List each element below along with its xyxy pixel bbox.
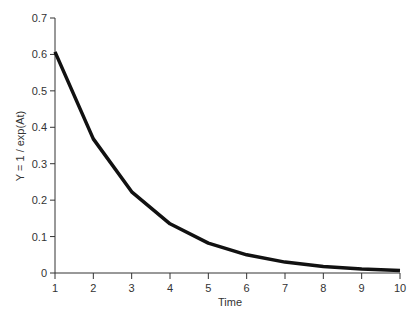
x-tick-label: 9 <box>359 282 365 294</box>
x-tick-label: 10 <box>394 282 406 294</box>
x-axis-label: Time <box>218 296 242 308</box>
y-axis: 00.10.20.30.40.50.60.7 <box>32 12 55 279</box>
x-tick-label: 4 <box>167 282 173 294</box>
x-tick-label: 1 <box>52 282 58 294</box>
y-tick-label: 0.3 <box>32 158 47 170</box>
x-tick-label: 8 <box>320 282 326 294</box>
y-tick-label: 0.1 <box>32 231 47 243</box>
y-tick-label: 0.2 <box>32 194 47 206</box>
y-tick-label: 0.5 <box>32 85 47 97</box>
chart: 00.10.20.30.40.50.60.7 12345678910 Time … <box>0 0 416 330</box>
x-tick-label: 3 <box>129 282 135 294</box>
x-tick-label: 2 <box>90 282 96 294</box>
y-tick-label: 0 <box>41 267 47 279</box>
data-line <box>55 52 400 271</box>
y-tick-label: 0.4 <box>32 121 47 133</box>
x-tick-label: 6 <box>244 282 250 294</box>
x-tick-label: 7 <box>282 282 288 294</box>
x-axis: 12345678910 <box>52 273 406 294</box>
x-tick-label: 5 <box>205 282 211 294</box>
y-tick-label: 0.7 <box>32 12 47 24</box>
y-tick-label: 0.6 <box>32 48 47 60</box>
y-axis-label: Y = 1 / exp(At) <box>14 111 26 181</box>
